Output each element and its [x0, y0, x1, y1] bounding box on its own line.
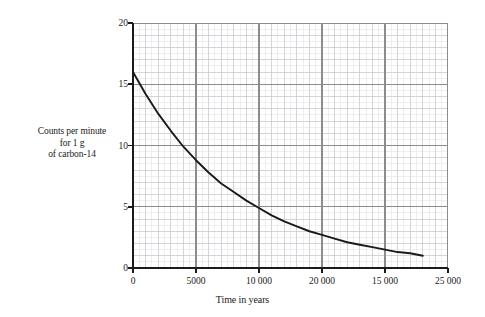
x-tick-label: 0 — [131, 276, 136, 287]
y-tick-label: 15 — [104, 79, 128, 90]
x-tick-label: 10 000 — [246, 276, 272, 287]
x-axis-title: Time in years — [0, 294, 485, 306]
y-tick-label: 10 — [104, 140, 128, 151]
x-tick-label: 20 000 — [309, 276, 335, 287]
x-tick-label: 15 000 — [372, 276, 398, 287]
y-axis-title-line-1: Counts per minute — [16, 126, 128, 138]
y-tick-label: 20 — [104, 18, 128, 29]
x-tick-label: 25 000 — [435, 276, 461, 287]
y-tick-label: 5 — [104, 201, 128, 212]
y-tick-label: 0 — [104, 263, 128, 274]
chart-figure: Counts per minute for 1 g of carbon-14 T… — [0, 0, 485, 317]
x-tick-label: 5000 — [187, 276, 206, 287]
